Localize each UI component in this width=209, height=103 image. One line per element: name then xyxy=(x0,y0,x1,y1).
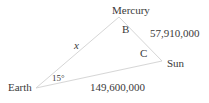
side-label-earth-sun: 149,600,000 xyxy=(90,82,145,93)
angle-label-earth: 15° xyxy=(52,74,65,83)
side-label-earth-mercury: x xyxy=(74,40,79,51)
angle-label-mercury: B xyxy=(122,24,129,35)
side-label-mercury-sun: 57,910,000 xyxy=(150,28,200,39)
vertex-label-earth: Earth xyxy=(8,82,32,93)
vertex-label-sun: Sun xyxy=(167,58,184,69)
angle-label-sun: C xyxy=(140,48,147,59)
vertex-label-mercury: Mercury xyxy=(112,5,150,16)
side-earth-mercury xyxy=(36,17,119,88)
